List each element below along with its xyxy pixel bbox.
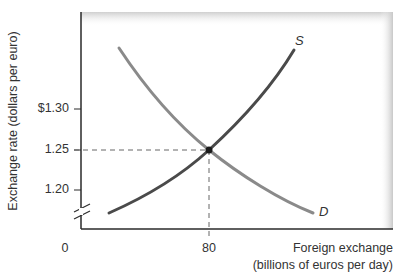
x-axis-label: Foreign exchange (billions of euros per … (253, 240, 393, 274)
supply-label: S (295, 33, 304, 48)
xtick-label-80: 80 (194, 241, 224, 255)
plot-right-shade (380, 12, 393, 229)
y-axis-label-text: Exchange rate (dollars per euro) (6, 31, 20, 210)
xtick-label-0: 0 (50, 241, 80, 255)
chart-plot (0, 0, 403, 276)
plot-top-shade (81, 12, 393, 26)
x-axis-label-line1: Foreign exchange (253, 240, 393, 257)
ytick-label-130: $1.30 (29, 101, 69, 115)
demand-curve (119, 48, 313, 213)
ytick-label-125: 1.25 (29, 142, 69, 156)
equilibrium-point (206, 147, 213, 154)
ytick-label-120: 1.20 (29, 182, 69, 196)
x-axis-label-line2: (billions of euros per day) (253, 257, 393, 274)
demand-label: D (319, 204, 328, 219)
y-axis-label: Exchange rate (dollars per euro) (4, 12, 22, 229)
